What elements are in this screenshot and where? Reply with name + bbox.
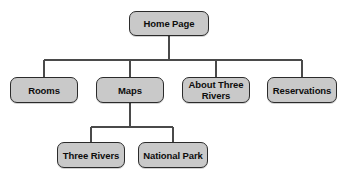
node-home-page-label: Home Page	[141, 18, 198, 29]
node-about-three-rivers-label: About Three Rivers	[186, 79, 247, 101]
node-three-rivers[interactable]: Three Rivers	[57, 142, 125, 168]
node-home-page[interactable]: Home Page	[129, 11, 209, 36]
node-maps[interactable]: Maps	[96, 77, 164, 103]
node-about-three-rivers[interactable]: About Three Rivers	[182, 77, 250, 103]
node-reservations-label: Reservations	[270, 85, 334, 96]
node-rooms[interactable]: Rooms	[10, 77, 78, 103]
node-rooms-label: Rooms	[25, 85, 63, 96]
node-national-park[interactable]: National Park	[138, 142, 208, 168]
node-national-park-label: National Park	[140, 150, 205, 161]
node-reservations[interactable]: Reservations	[267, 77, 337, 103]
node-maps-label: Maps	[115, 85, 145, 96]
site-map-diagram: Home Page Rooms Maps About Three Rivers …	[0, 0, 343, 191]
node-three-rivers-label: Three Rivers	[60, 150, 122, 161]
